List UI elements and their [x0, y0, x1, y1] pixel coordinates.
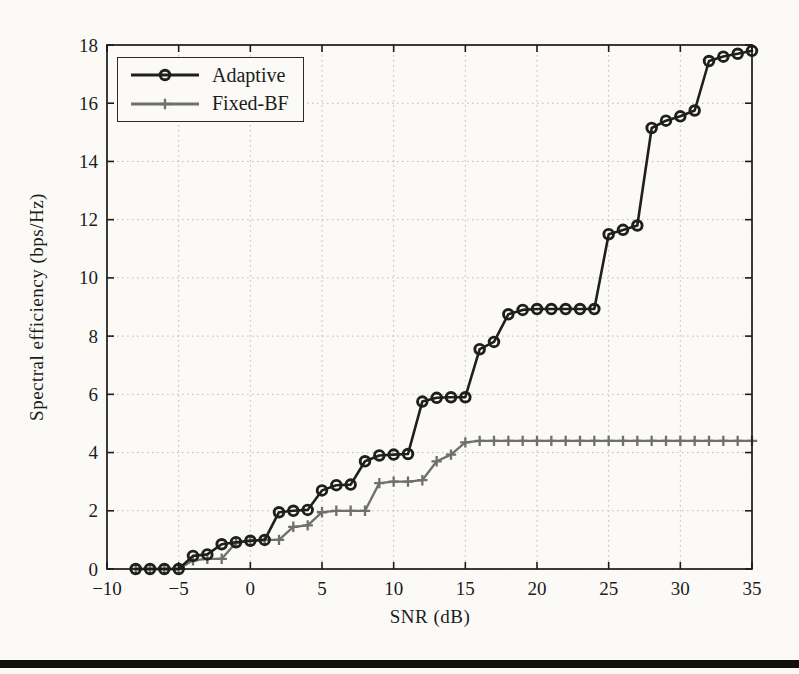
- fixed-bf-marker: [503, 436, 513, 446]
- x-axis-title: SNR (dB): [107, 606, 753, 628]
- fixed-bf-marker: [618, 436, 628, 446]
- legend-item-fixed-bf: Fixed-BF: [118, 92, 303, 115]
- adaptive-line: [136, 51, 752, 569]
- fixed-bf-marker: [632, 436, 642, 446]
- fixed-bf-marker: [718, 436, 728, 446]
- y-tick-label: 0: [89, 559, 99, 580]
- y-tick-label: 4: [89, 442, 99, 463]
- figure-page: −10−505101520253035024681012141618 Spect…: [0, 0, 799, 674]
- x-tick-label: −10: [92, 578, 122, 599]
- x-tick-label: 30: [671, 578, 690, 599]
- fixed-bf-marker: [403, 476, 413, 486]
- fixed-bf-marker: [345, 506, 355, 516]
- y-tick-label: 10: [79, 267, 98, 288]
- legend: Adaptive Fixed-BF: [117, 57, 304, 122]
- x-tick-label: −5: [169, 578, 189, 599]
- y-tick-label: 18: [79, 35, 98, 56]
- fixed-bf-line-sample-icon: [130, 96, 200, 112]
- fixed-bf-marker: [646, 436, 656, 446]
- fixed-bf-marker: [603, 436, 613, 446]
- y-tick-label: 2: [89, 500, 99, 521]
- fixed-bf-marker: [489, 436, 499, 446]
- fixed-bf-marker: [546, 436, 556, 446]
- page-rule: [0, 660, 799, 668]
- fixed-bf-marker: [360, 506, 370, 516]
- x-tick-label: 25: [599, 578, 618, 599]
- fixed-bf-marker: [675, 436, 685, 446]
- fixed-bf-marker: [732, 436, 742, 446]
- fixed-bf-marker: [331, 506, 341, 516]
- fixed-bf-marker: [661, 436, 671, 446]
- fixed-bf-marker: [517, 436, 527, 446]
- fixed-bf-marker: [532, 436, 542, 446]
- fixed-bf-marker: [689, 436, 699, 446]
- x-tick-label: 20: [528, 578, 547, 599]
- adaptive-line-sample-icon: [130, 67, 200, 83]
- y-tick-label: 14: [79, 151, 99, 172]
- x-tick-label: 0: [246, 578, 256, 599]
- fixed-bf-marker: [575, 436, 585, 446]
- fixed-bf-marker: [474, 436, 484, 446]
- fixed-bf-line: [136, 441, 752, 569]
- legend-label-adaptive: Adaptive: [212, 64, 285, 87]
- legend-item-adaptive: Adaptive: [118, 64, 303, 87]
- fixed-bf-marker: [704, 436, 714, 446]
- x-tick-label: 5: [317, 578, 327, 599]
- fixed-bf-marker: [388, 476, 398, 486]
- x-tick-label: 35: [743, 578, 762, 599]
- y-tick-label: 12: [79, 209, 98, 230]
- y-tick-label: 8: [89, 326, 99, 347]
- legend-label-fixed-bf: Fixed-BF: [212, 92, 289, 115]
- series-fixed-bf: [130, 436, 757, 574]
- fixed-bf-marker: [374, 478, 384, 488]
- fixed-bf-marker: [589, 436, 599, 446]
- y-tick-label: 16: [79, 93, 98, 114]
- y-tick-label: 6: [89, 384, 99, 405]
- x-tick-label: 15: [456, 578, 475, 599]
- series-adaptive: [131, 46, 757, 574]
- fixed-bf-marker: [560, 436, 570, 446]
- y-axis-title: Spectral efficiency (bps/Hz): [26, 193, 48, 421]
- x-tick-label: 10: [384, 578, 403, 599]
